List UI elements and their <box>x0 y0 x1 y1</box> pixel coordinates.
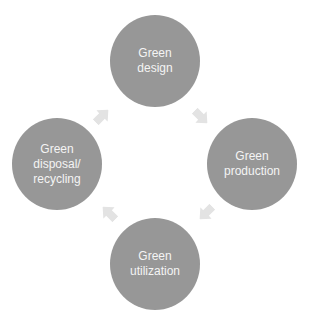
green-lifecycle-cycle-diagram: Green design Green production Green util… <box>0 0 311 327</box>
arrow-up-left-icon <box>97 201 121 225</box>
node-green-disposal-recycling: Green disposal/ recycling <box>12 118 102 210</box>
node-label: Green design <box>133 46 176 76</box>
node-green-design: Green design <box>110 15 200 107</box>
node-label: Green disposal/ recycling <box>29 142 84 187</box>
node-label: Green production <box>220 149 284 179</box>
node-green-production: Green production <box>207 118 297 210</box>
node-label: Green utilization <box>126 249 184 279</box>
arrow-up-right-icon <box>90 104 114 128</box>
node-green-utilization: Green utilization <box>110 218 200 310</box>
arrow-down-right-icon <box>189 105 213 129</box>
arrow-down-left-icon <box>194 201 218 225</box>
